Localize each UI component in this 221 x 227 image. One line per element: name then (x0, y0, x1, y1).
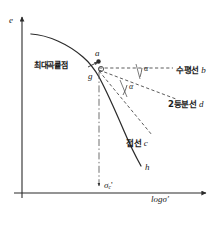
tangent-line-label: 접선 c (126, 133, 148, 149)
y-axis-label: e (9, 16, 13, 25)
point-label-a: a (95, 49, 100, 58)
bisector-line-id: d (199, 99, 204, 109)
horizontal-line-text: 수평선 (176, 65, 199, 75)
angle-arc-lower (123, 85, 127, 95)
diagram-canvas (0, 0, 221, 227)
tangent-line-text: 접선 (126, 138, 141, 148)
point-a-marker (96, 59, 100, 63)
point-label-g: g (88, 72, 93, 81)
bisector-line-text: 2등분선 (168, 99, 197, 109)
x-axis-label: logσ' (151, 195, 169, 204)
angle-tick-upper-a (136, 64, 140, 79)
angle-label-upper-alpha: α (144, 65, 148, 73)
angle-arc-upper (140, 68, 142, 77)
tangent-line-id: c (144, 138, 148, 148)
horizontal-line-label: 수평선 b (176, 60, 206, 76)
point-label-h: h (145, 163, 150, 172)
preconsolidation-pressure-label: σc' (104, 181, 113, 191)
bisector-line-label: 2등분선 d (168, 94, 203, 110)
sigma-prime: ' (111, 180, 113, 190)
e-log-sigma-diagram: e logσ' a g h α α 최대곡률점 수평선 b 2등분선 d 접선 … (0, 0, 221, 227)
tangent-line-c (99, 71, 152, 135)
horizontal-line-id: b (201, 65, 206, 75)
compression-curve-h (31, 34, 141, 166)
max-curvature-point-label: 최대곡률점 (34, 62, 68, 70)
angle-label-lower-alpha: α (129, 83, 133, 91)
